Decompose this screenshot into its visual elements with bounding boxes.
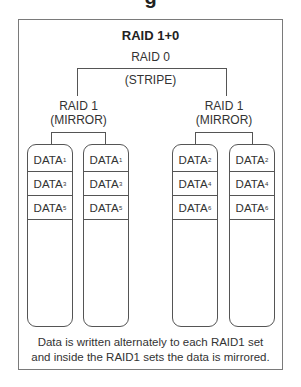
cut-off-heading: g bbox=[0, 0, 301, 9]
diagram-title: RAID 1+0 bbox=[0, 28, 301, 43]
mirror-right-bracket-left bbox=[195, 132, 196, 144]
mirror-left-subtitle: (MIRROR) bbox=[27, 113, 130, 127]
caption-line-1: Data is written alternately to each RAID… bbox=[0, 335, 301, 350]
data-block: DATA4 bbox=[173, 172, 217, 196]
data-block: DATA2 bbox=[230, 145, 274, 172]
data-block: DATA2 bbox=[173, 145, 217, 172]
disk-3: DATA2 DATA4 DATA6 bbox=[172, 144, 218, 327]
data-block: DATA1 bbox=[84, 145, 128, 172]
stripe-sublabel: (STRIPE) bbox=[0, 73, 301, 87]
mirror-right-title: RAID 1 bbox=[172, 99, 276, 113]
stripe-bracket-left bbox=[77, 68, 78, 96]
mirror-left-bracket-horizontal bbox=[51, 132, 106, 133]
diagram-caption: Data is written alternately to each RAID… bbox=[0, 335, 301, 365]
disk-1: DATA1 DATA3 DATA5 bbox=[27, 144, 73, 327]
mirror-label-left: RAID 1 (MIRROR) bbox=[27, 99, 130, 127]
mirror-right-subtitle: (MIRROR) bbox=[172, 113, 276, 127]
stripe-label: RAID 0 bbox=[0, 50, 301, 64]
data-block: DATA6 bbox=[230, 196, 274, 220]
mirror-left-bracket-left bbox=[51, 132, 52, 144]
stripe-bracket-horizontal bbox=[77, 68, 227, 69]
mirror-left-title: RAID 1 bbox=[27, 99, 130, 113]
data-block: DATA5 bbox=[28, 196, 72, 220]
disk-4: DATA2 DATA4 DATA6 bbox=[229, 144, 275, 327]
data-block: DATA6 bbox=[173, 196, 217, 220]
caption-line-2: and inside the RAID1 sets the data is mi… bbox=[0, 350, 301, 365]
mirror-right-bracket-right bbox=[252, 132, 253, 144]
mirror-left-bracket-right bbox=[105, 132, 106, 144]
mirror-label-right: RAID 1 (MIRROR) bbox=[172, 99, 276, 127]
data-block: DATA3 bbox=[84, 172, 128, 196]
disk-2: DATA1 DATA3 DATA5 bbox=[83, 144, 129, 327]
data-block: DATA3 bbox=[28, 172, 72, 196]
mirror-right-bracket-horizontal bbox=[195, 132, 253, 133]
data-block: DATA4 bbox=[230, 172, 274, 196]
data-block: DATA1 bbox=[28, 145, 72, 172]
data-block: DATA5 bbox=[84, 196, 128, 220]
stripe-bracket-right bbox=[226, 68, 227, 96]
